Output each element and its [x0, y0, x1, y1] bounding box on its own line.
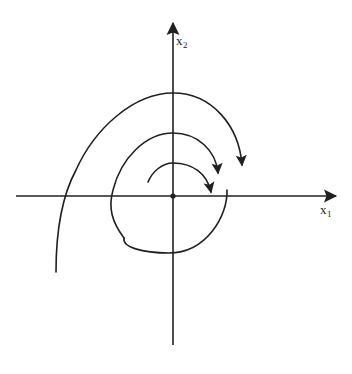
spiral-trajectory-group: [56, 93, 242, 272]
phase-portrait-svg: [0, 0, 352, 374]
x1-axis-label-base: x: [320, 202, 327, 217]
x1-axis-label-subscript: 1: [327, 209, 332, 219]
x2-axis-label-base: x: [176, 33, 183, 48]
spiral-inner-arm: [148, 163, 211, 192]
spiral-middle-arm: [111, 133, 218, 238]
x2-axis-label: x2: [176, 34, 188, 50]
spiral-lower-loop: [124, 190, 227, 253]
x2-axis-label-subscript: 2: [183, 40, 188, 50]
origin-dot: [170, 193, 175, 198]
phase-portrait-figure: x2 x1: [0, 0, 352, 374]
x1-axis-label: x1: [320, 203, 332, 219]
spiral-outer-arm: [56, 93, 242, 272]
axes-group: [16, 23, 336, 345]
